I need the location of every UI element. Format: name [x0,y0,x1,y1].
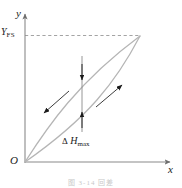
y-axis-label: y [16,8,21,19]
hysteresis-figure: y x O YFS Δ Hmax 图 3-14 回差 [0,0,182,188]
figure-caption: 图 3-14 回差 [0,177,182,188]
h-subscript: max [78,140,90,148]
h-base: H [70,135,77,146]
x-axis-label: x [168,164,173,175]
delta-symbol: Δ [62,136,68,146]
figure-canvas [0,0,182,188]
yfs-label: YFS [1,27,15,37]
yfs-base: Y [1,26,7,37]
delta-h-max-label: Δ Hmax [62,136,90,146]
descending-direction-arrow-icon [44,91,69,113]
origin-label: O [10,155,18,166]
yfs-subscript: FS [7,31,15,39]
